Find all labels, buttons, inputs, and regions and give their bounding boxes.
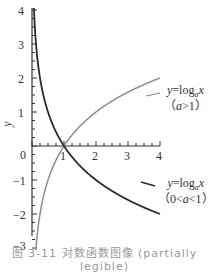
y-tick-1: 1 <box>18 107 24 119</box>
y-tick-neg2: −2 <box>13 209 26 221</box>
x-axis-ticks <box>32 141 160 146</box>
label-log-a-greater-than-1: y=logax （a>1） <box>164 84 207 113</box>
cond-open: （0< <box>158 192 183 206</box>
x-tick-2: 2 <box>92 150 98 162</box>
x-tick-4: 4 <box>156 150 162 162</box>
label-x: x <box>198 83 203 97</box>
y-tick-2: 2 <box>18 73 24 85</box>
figure-caption: 图 3-11 对数函数图像 (partially legible) <box>0 244 209 273</box>
x-tick-1: 1 <box>60 150 66 162</box>
label-eq: =log <box>173 176 195 190</box>
y-axis-label: y <box>1 121 13 126</box>
y-tick-neg1: −1 <box>13 175 26 187</box>
y-tick-3: 3 <box>18 39 24 51</box>
lower-label-leader <box>141 182 155 186</box>
upper-label-leader <box>146 93 160 96</box>
cond-close: ） <box>202 192 214 206</box>
curve-log-a-greater-than-1 <box>36 78 160 250</box>
cond-rel: >1 <box>182 99 195 113</box>
label-log-a-between-0-and-1: y=logax （0<a<1） <box>158 177 214 206</box>
cond-open: （ <box>164 99 176 113</box>
origin-label: 0 <box>20 149 26 161</box>
x-tick-3: 3 <box>124 150 130 162</box>
y-tick-4: 4 <box>18 5 24 17</box>
label-x: x <box>199 176 204 190</box>
cond-close: ） <box>195 99 207 113</box>
label-eq: =log <box>172 83 194 97</box>
cond-rel: <1 <box>189 192 202 206</box>
